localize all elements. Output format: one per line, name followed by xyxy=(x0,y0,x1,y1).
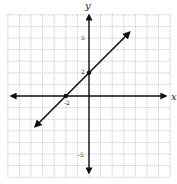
y-axis-label: y xyxy=(84,0,91,11)
data-point xyxy=(64,94,68,98)
tick-label-x-neg2: -2 xyxy=(64,99,70,106)
tick-label-y-5: 5 xyxy=(81,34,85,41)
coordinate-plane: y x 5 2 -5 -2 xyxy=(0,0,177,184)
line-y-equals-x-plus-2 xyxy=(35,32,130,127)
tick-label-y-neg5: -5 xyxy=(78,151,84,158)
tick-label-y-2: 2 xyxy=(81,68,85,75)
x-axis-label: x xyxy=(171,91,177,102)
data-point xyxy=(87,71,91,75)
